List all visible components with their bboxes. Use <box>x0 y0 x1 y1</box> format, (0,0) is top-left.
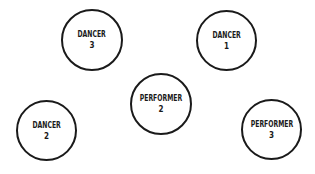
node-dancer-1: DANCER 1 <box>196 10 257 71</box>
node-performer-3: PERFORMER 3 <box>241 99 302 160</box>
node-number: 2 <box>44 131 49 142</box>
node-number: 1 <box>224 41 229 52</box>
node-dancer-2: DANCER 2 <box>16 100 77 161</box>
node-label: PERFORMER <box>250 119 292 130</box>
node-label: PERFORMER <box>140 93 182 104</box>
node-label: DANCER <box>32 120 60 131</box>
node-label: DANCER <box>212 30 240 41</box>
node-number: 3 <box>89 40 94 51</box>
node-dancer-3: DANCER 3 <box>61 9 123 71</box>
node-number: 3 <box>269 130 274 141</box>
node-performer-2: PERFORMER 2 <box>130 73 192 135</box>
node-label: DANCER <box>78 29 106 40</box>
node-number: 2 <box>158 104 163 115</box>
